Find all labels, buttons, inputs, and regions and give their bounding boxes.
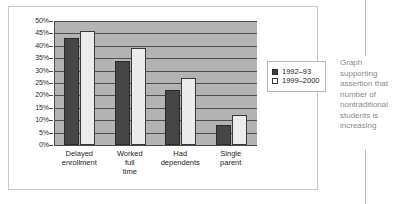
y-tick-mark (49, 145, 53, 146)
annotation-caption: Graph supporting assertion that number o… (340, 58, 397, 132)
annotation-rule-top (365, 0, 366, 56)
y-tick-label: 40% (17, 42, 49, 49)
bar (232, 115, 247, 145)
y-tick-mark (49, 120, 53, 121)
legend-item: 1999–2000 (272, 77, 320, 85)
bar-group (55, 21, 106, 145)
y-tick-mark (49, 83, 53, 84)
y-tick-mark (49, 108, 53, 109)
y-tick-label: 25% (17, 79, 49, 86)
bar-group (207, 21, 258, 145)
x-category-line: Single (201, 149, 261, 158)
y-tick-label: 0% (17, 141, 49, 148)
bar (64, 38, 79, 145)
y-tick-mark (49, 58, 53, 59)
bar (181, 78, 196, 145)
y-tick-mark (49, 95, 53, 96)
y-tick-label: 45% (17, 29, 49, 36)
y-axis: 50%45%40%35%30%25%20%15%10%5%0% (15, 21, 49, 145)
bar (131, 48, 146, 145)
bar (80, 31, 95, 145)
legend-label-series-0: 1992–93 (282, 68, 311, 76)
y-tick-mark (49, 133, 53, 134)
legend-swatch-series-1 (272, 78, 278, 84)
y-tick-label: 30% (17, 67, 49, 74)
bar (165, 90, 180, 145)
y-tick-label: 35% (17, 54, 49, 61)
y-tick-label: 5% (17, 129, 49, 136)
chart-legend: 1992–93 1999–2000 (267, 61, 326, 92)
y-tick-mark (49, 21, 53, 22)
legend-label-series-1: 1999–2000 (282, 77, 320, 85)
y-tick-label: 10% (17, 116, 49, 123)
x-category-line: parent (201, 158, 261, 167)
y-tick-label: 50% (17, 17, 49, 24)
y-tick-mark (49, 71, 53, 72)
legend-item: 1992–93 (272, 68, 320, 76)
x-category-line: time (100, 167, 160, 176)
annotation-rule-bottom (365, 150, 366, 204)
x-category-label: Singleparent (201, 149, 261, 167)
y-tick-mark (49, 46, 53, 47)
bar (216, 125, 231, 145)
bar-group (156, 21, 207, 145)
y-tick-label: 20% (17, 91, 49, 98)
y-tick-mark (49, 33, 53, 34)
plot-area (54, 21, 257, 146)
bar-group (106, 21, 157, 145)
figure-frame: 50%45%40%35%30%25%20%15%10%5%0% Delayede… (8, 6, 318, 190)
y-tick-label: 15% (17, 104, 49, 111)
bar (115, 61, 130, 145)
legend-swatch-series-0 (272, 69, 278, 75)
